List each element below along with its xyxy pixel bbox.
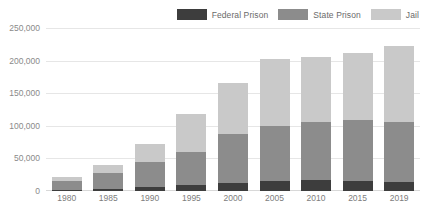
- legend-label-jail: Jail: [406, 10, 419, 20]
- bar-segment[interactable]: [93, 173, 123, 189]
- legend-item-federal-prison[interactable]: Federal Prison: [177, 9, 269, 20]
- x-axis-tick-label: 1980: [52, 193, 82, 203]
- bar-segment[interactable]: [343, 53, 373, 120]
- bar-segment[interactable]: [343, 120, 373, 181]
- plot-area: 050,000100,000150,000200,000250,000: [46, 28, 420, 191]
- x-axis-tick-label: 2010: [301, 193, 331, 203]
- legend-swatch-jail: [371, 9, 401, 20]
- x-axis-tick-label: 1995: [176, 193, 206, 203]
- legend-label-state-prison: State Prison: [313, 10, 361, 20]
- y-axis-tick-label: 50,000: [14, 153, 40, 163]
- bar-segment[interactable]: [384, 122, 414, 182]
- bar-segment[interactable]: [135, 187, 165, 191]
- bar-column[interactable]: [52, 28, 82, 191]
- y-axis-tick-label: 200,000: [9, 56, 40, 66]
- y-axis-tick-label: 100,000: [9, 121, 40, 131]
- x-axis-tick-label: 2015: [343, 193, 373, 203]
- bar-column[interactable]: [135, 28, 165, 191]
- bar-segment[interactable]: [93, 165, 123, 173]
- bar-segment[interactable]: [301, 57, 331, 122]
- bar-segment[interactable]: [260, 126, 290, 181]
- x-axis-tick-label: 2000: [218, 193, 248, 203]
- bar-segment[interactable]: [343, 181, 373, 191]
- bar-column[interactable]: [384, 28, 414, 191]
- chart-legend: Federal Prison State Prison Jail: [0, 9, 427, 20]
- y-axis-tick-label: 250,000: [9, 23, 40, 33]
- bar-segment[interactable]: [176, 152, 206, 185]
- bar-column[interactable]: [260, 28, 290, 191]
- bar-segment[interactable]: [384, 46, 414, 122]
- bar-segment[interactable]: [218, 134, 248, 183]
- legend-item-state-prison[interactable]: State Prison: [278, 9, 361, 20]
- bar-column[interactable]: [93, 28, 123, 191]
- bar-segment[interactable]: [176, 114, 206, 152]
- bar-segment[interactable]: [260, 59, 290, 126]
- stacked-bar-chart: Federal Prison State Prison Jail 050,000…: [0, 0, 427, 224]
- x-axis-tick-label: 2019: [384, 193, 414, 203]
- bar-segment[interactable]: [135, 144, 165, 162]
- bar-column[interactable]: [218, 28, 248, 191]
- bar-column[interactable]: [176, 28, 206, 191]
- bar-segment[interactable]: [93, 189, 123, 191]
- x-axis-tick-label: 1985: [93, 193, 123, 203]
- legend-swatch-state-prison: [278, 9, 308, 20]
- y-axis-tick-label: 0: [35, 186, 40, 196]
- x-axis-tick-label: 1990: [135, 193, 165, 203]
- bar-segment[interactable]: [218, 83, 248, 134]
- bar-segment[interactable]: [301, 180, 331, 191]
- bar-segment[interactable]: [52, 181, 82, 189]
- legend-label-federal-prison: Federal Prison: [212, 10, 269, 20]
- x-axis-labels: 198019851990199520002005201020152019: [46, 193, 420, 203]
- legend-item-jail[interactable]: Jail: [371, 9, 419, 20]
- x-axis-tick-label: 2005: [260, 193, 290, 203]
- bar-column[interactable]: [301, 28, 331, 191]
- bar-segment[interactable]: [301, 122, 331, 180]
- bar-segment[interactable]: [135, 162, 165, 187]
- bar-group: [46, 28, 420, 191]
- bar-segment[interactable]: [260, 181, 290, 191]
- legend-swatch-federal-prison: [177, 9, 207, 20]
- bar-segment[interactable]: [176, 185, 206, 191]
- bar-segment[interactable]: [52, 190, 82, 191]
- bar-segment[interactable]: [384, 182, 414, 191]
- y-axis-tick-label: 150,000: [9, 88, 40, 98]
- bar-segment[interactable]: [218, 183, 248, 191]
- bar-column[interactable]: [343, 28, 373, 191]
